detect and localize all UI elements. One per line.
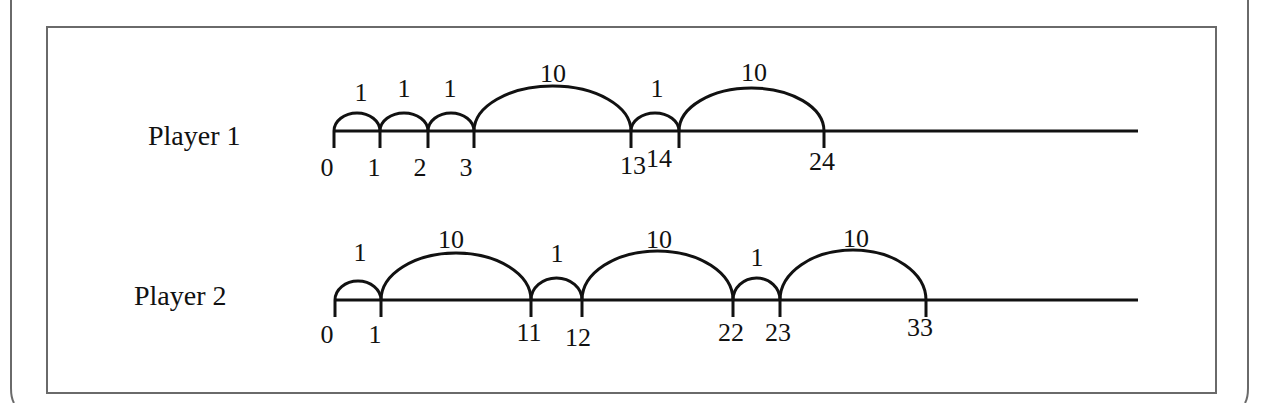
- player-1-number-line: 012313142411110110: [321, 58, 1139, 182]
- jump-arc: [428, 113, 474, 131]
- jump-size-label: 1: [444, 74, 457, 103]
- tick-label: 1: [369, 320, 382, 349]
- tick-label: 13: [620, 151, 646, 180]
- jump-size-label: 1: [355, 78, 368, 107]
- player-2-number-line: 011112222333110110110: [321, 224, 1139, 352]
- tick-label: 23: [765, 318, 791, 347]
- player-2-row: Player 2 011112222333110110110: [134, 224, 1138, 352]
- jump-arc: [381, 253, 531, 300]
- tick-label: 11: [516, 318, 541, 347]
- tick-label: 0: [321, 320, 334, 349]
- jump-size-label: 10: [438, 225, 464, 254]
- jump-size-label: 1: [354, 238, 367, 267]
- jump-arc: [679, 88, 824, 131]
- jump-arc: [334, 113, 380, 131]
- tick-label: 14: [646, 144, 672, 173]
- tick-label: 33: [907, 313, 933, 342]
- jump-arc: [474, 86, 631, 131]
- jump-size-label: 1: [751, 243, 764, 272]
- jump-size-label: 1: [651, 74, 664, 103]
- jump-size-label: 10: [646, 225, 672, 254]
- tick-label: 22: [718, 318, 744, 347]
- jump-size-label: 1: [551, 239, 564, 268]
- tick-label: 3: [460, 153, 473, 182]
- player-1-row: Player 1 012313142411110110: [148, 58, 1138, 182]
- jump-arc: [335, 281, 381, 300]
- tick-label: 12: [565, 323, 591, 352]
- jump-arc: [780, 250, 926, 300]
- jump-arc: [531, 278, 582, 300]
- jump-arc: [380, 113, 428, 131]
- jump-size-label: 10: [741, 58, 767, 87]
- tick-label: 24: [809, 147, 835, 176]
- jump-arc: [582, 251, 733, 300]
- jump-arc: [631, 113, 679, 131]
- jump-arc: [733, 278, 780, 300]
- jump-size-label: 1: [398, 74, 411, 103]
- jump-size-label: 10: [540, 59, 566, 88]
- player-2-label: Player 2: [134, 280, 227, 311]
- tick-label: 2: [414, 153, 427, 182]
- tick-label: 0: [321, 153, 334, 182]
- player-1-label: Player 1: [148, 120, 241, 151]
- tick-label: 1: [368, 153, 381, 182]
- jump-size-label: 10: [843, 224, 869, 253]
- number-line-diagram: Player 1 012313142411110110 Player 2 011…: [0, 0, 1267, 403]
